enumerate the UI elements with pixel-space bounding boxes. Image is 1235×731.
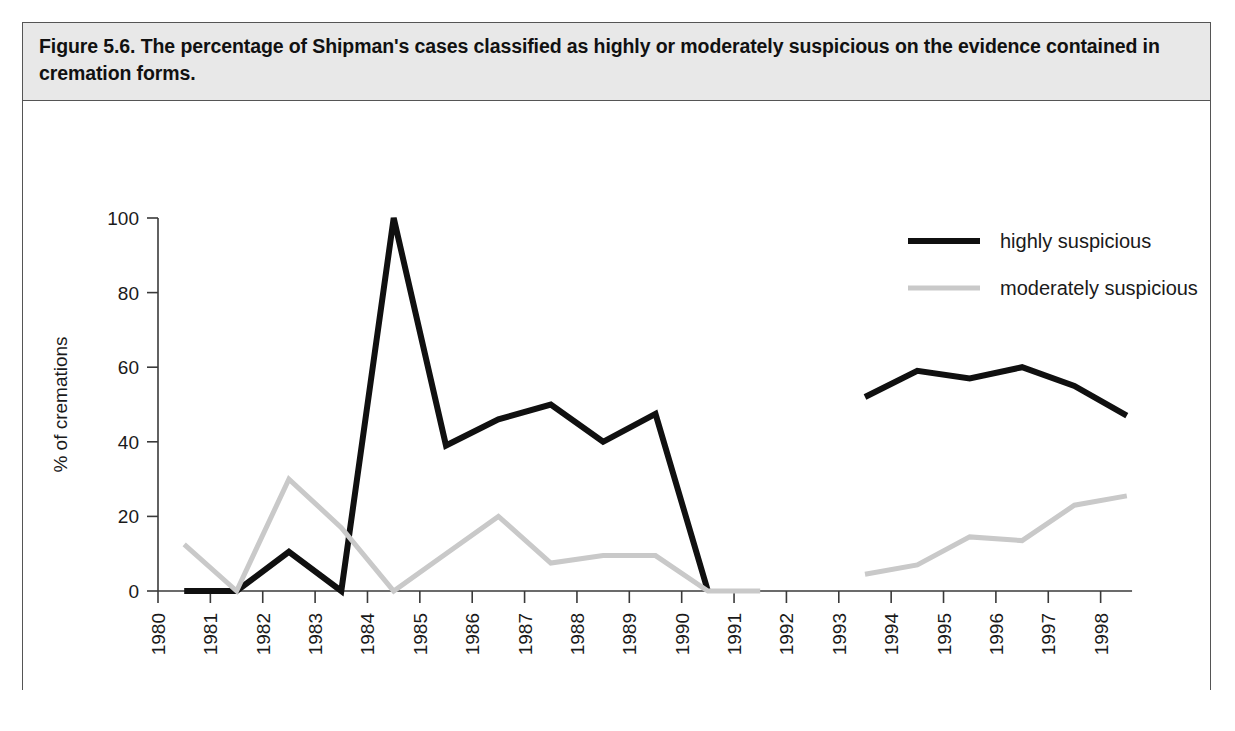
x-tick-label: 1982 [253,613,274,655]
x-tick-label: 1994 [881,613,902,656]
line-chart: 020406080100% of cremations1980198119821… [23,101,1210,690]
x-tick-label: 1993 [829,613,850,655]
series-line-highly-1 [865,367,1127,416]
y-tick-label: 20 [118,506,139,527]
x-tick-label: 1991 [724,613,745,655]
y-tick-label: 60 [118,357,139,378]
y-axis-title: % of cremations [50,336,71,472]
legend-label-1: moderately suspicious [1000,277,1198,299]
x-tick-label: 1995 [934,613,955,655]
x-tick-label: 1984 [357,613,378,656]
series-line-moderately-0 [184,479,760,591]
x-tick-label: 1989 [619,613,640,655]
y-tick-label: 80 [118,283,139,304]
x-tick-label: 1980 [148,613,169,655]
x-tick-label: 1992 [776,613,797,655]
x-tick-label: 1987 [515,613,536,655]
x-tick-label: 1983 [305,613,326,655]
y-tick-label: 0 [128,581,139,602]
series-line-moderately-1 [865,496,1127,574]
figure-caption: Figure 5.6. The percentage of Shipman's … [39,33,1194,87]
figure-frame: Figure 5.6. The percentage of Shipman's … [22,22,1211,690]
x-tick-label: 1986 [462,613,483,655]
x-tick-label: 1988 [567,613,588,655]
y-tick-label: 40 [118,432,139,453]
figure-caption-band: Figure 5.6. The percentage of Shipman's … [23,23,1210,101]
x-tick-label: 1997 [1038,613,1059,655]
x-tick-label: 1996 [986,613,1007,655]
x-tick-label: 1990 [672,613,693,655]
x-tick-label: 1981 [200,613,221,655]
x-tick-label: 1985 [410,613,431,655]
x-tick-label: 1998 [1091,613,1112,655]
legend-label-0: highly suspicious [1000,230,1151,252]
y-tick-label: 100 [107,208,139,229]
plot-area: 020406080100% of cremations1980198119821… [23,101,1210,690]
figure-page: Figure 5.6. The percentage of Shipman's … [0,0,1235,731]
